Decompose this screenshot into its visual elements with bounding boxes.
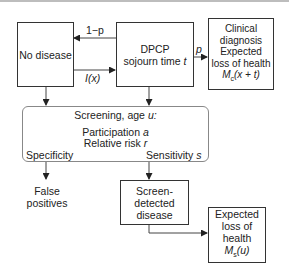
expected-loss-formula: Ms(u): [224, 244, 249, 261]
dpcp-label: DPCP: [140, 43, 169, 55]
expected-loss-node: Expected loss of health Ms(u): [208, 207, 266, 263]
screen-detected-line3: disease: [136, 209, 172, 221]
sojourn-text: sojourn time: [123, 55, 183, 67]
clinical-line3: Expected: [220, 46, 262, 58]
sojourn-var: t: [184, 55, 187, 67]
dpcp-sojourn-label: sojourn time t: [123, 55, 186, 67]
relrisk-var: r: [144, 137, 148, 149]
clinical-formula: Mc(x + t): [222, 69, 260, 85]
sensitivity-text: Sensitivity: [146, 149, 196, 161]
sensitivity-var: s: [196, 149, 201, 161]
no-disease-label: No disease: [19, 49, 72, 61]
edge-label-p: p: [196, 43, 202, 55]
formula-var: M: [222, 69, 230, 80]
clinical-line4: loss of health: [212, 58, 271, 70]
screening-title-var: u:: [148, 109, 157, 121]
screen-detected-line2: detected: [134, 197, 174, 209]
screening-title: Screening, age u:: [22, 109, 209, 121]
sensitivity-label: Sensitivity s: [146, 149, 201, 161]
relative-risk-label: Relative risk r: [22, 137, 209, 149]
clinical-line2: diagnosis: [220, 35, 262, 47]
expected-loss-line2: loss of: [222, 220, 252, 232]
dpcp-node: DPCP sojourn time t: [116, 22, 194, 87]
formula-arg: (x + t): [234, 69, 260, 80]
edge-label-incidence: I(x): [85, 72, 100, 84]
expected-loss-line3: health: [223, 232, 252, 244]
relrisk-text: Relative risk: [84, 137, 144, 149]
screen-detected-node: Screen- detected disease: [120, 180, 189, 225]
expected-loss-line1: Expected: [215, 208, 259, 220]
formula-arg: (u): [237, 244, 250, 256]
clinical-diagnosis-node: Clinical diagnosis Expected loss of heal…: [208, 18, 274, 90]
false-positives-line2: positives: [20, 197, 74, 209]
screen-detected-line1: Screen-: [136, 185, 173, 197]
formula-var: M: [224, 244, 233, 256]
specificity-label: Specificity: [26, 149, 73, 161]
false-positives-line1: False: [20, 185, 74, 197]
edge-label-one-minus-p: 1−p: [86, 24, 104, 36]
clinical-line1: Clinical: [225, 23, 257, 35]
no-disease-node: No disease: [17, 22, 74, 87]
screening-title-text: Screening, age: [74, 109, 148, 121]
